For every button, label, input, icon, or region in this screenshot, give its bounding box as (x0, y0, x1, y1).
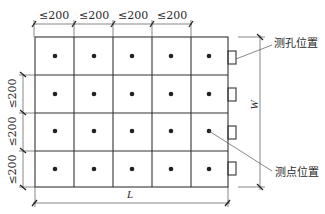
hole-1 (228, 51, 236, 64)
width-label: W (248, 100, 260, 109)
measurement-grid-diagram (0, 0, 325, 214)
left-dim-label-1: ≤200 (7, 76, 18, 112)
length-label: L (127, 188, 133, 200)
hole-3 (228, 126, 236, 139)
hole-2 (228, 88, 236, 101)
top-dim-label-2: ≤200 (79, 10, 109, 21)
point-position-callout: 测点位置 (275, 167, 319, 179)
left-dim-label-3: ≤200 (7, 152, 18, 188)
top-dim-label-3: ≤200 (118, 10, 148, 21)
top-dim-label-1: ≤200 (39, 10, 69, 21)
hole-position-callout: 测孔位置 (274, 38, 318, 50)
grid-outline (35, 37, 228, 187)
hole-leader-line (236, 45, 272, 59)
left-dim-label-2: ≤200 (7, 114, 18, 150)
top-dim-label-4: ≤200 (157, 10, 187, 21)
hole-4 (228, 162, 236, 175)
